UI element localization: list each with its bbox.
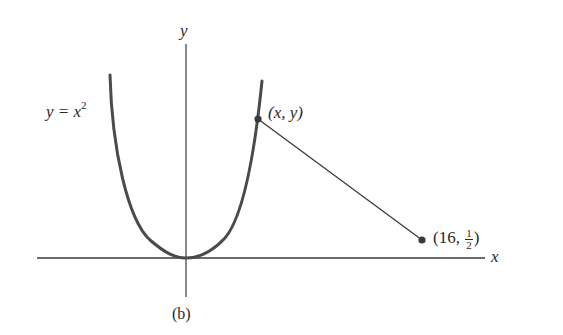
curve-equation-lhs: y = x [46,102,81,121]
curve-equation-label: y = x2 [46,100,87,120]
curve-equation-exponent: 2 [81,99,87,111]
fraction-denominator: 2 [466,240,472,251]
fixed-point-fraction: 12 [465,228,473,251]
x-axis-label: x [491,248,499,265]
distance-segment [258,119,422,240]
fixed-point-label: (16, 12) [433,228,479,251]
fixed-point-label-suffix: ) [474,228,480,247]
fixed-point-label-prefix: (16, [433,228,464,247]
y-axis-label: y [180,22,188,39]
figure-caption: (b) [172,306,191,322]
point-on-curve-label: (x, y) [268,104,303,121]
diagram-canvas [0,0,563,335]
point-on-curve-dot [254,115,261,122]
fixed-point-dot [418,236,425,243]
